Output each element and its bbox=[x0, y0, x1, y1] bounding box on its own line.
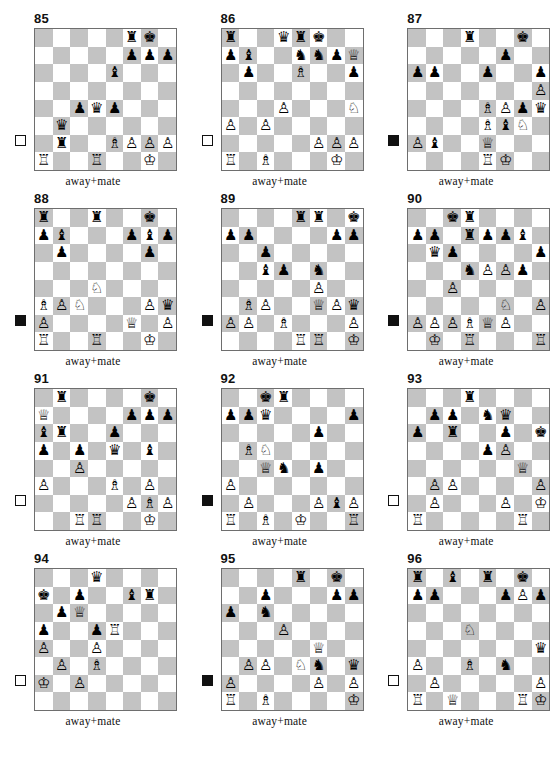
piece-wP-g3[interactable]: ♙ bbox=[143, 298, 156, 313]
square-e1[interactable]: ♖ bbox=[292, 332, 310, 350]
piece-wK-g1[interactable]: ♔ bbox=[143, 153, 156, 168]
square-g2[interactable] bbox=[327, 315, 345, 333]
square-b1[interactable] bbox=[239, 332, 257, 350]
square-e6[interactable] bbox=[292, 424, 310, 442]
square-h4[interactable] bbox=[532, 460, 550, 478]
square-a5[interactable]: ♟ bbox=[35, 442, 53, 460]
square-b2[interactable]: ♝ bbox=[426, 135, 444, 153]
square-a7[interactable] bbox=[408, 407, 426, 425]
square-f5[interactable] bbox=[496, 82, 514, 100]
square-g8[interactable]: ♚ bbox=[514, 29, 532, 47]
square-a5[interactable] bbox=[408, 82, 426, 100]
square-c3[interactable] bbox=[443, 117, 461, 135]
square-a7[interactable]: ♕ bbox=[35, 407, 53, 425]
square-h8[interactable] bbox=[345, 389, 363, 407]
square-h4[interactable]: ♘ bbox=[345, 100, 363, 118]
square-g5[interactable] bbox=[141, 262, 159, 280]
square-d7[interactable] bbox=[274, 407, 292, 425]
piece-bP-h7[interactable]: ♟ bbox=[161, 228, 174, 243]
square-h1[interactable] bbox=[158, 512, 176, 530]
square-g7[interactable] bbox=[514, 407, 532, 425]
square-d3[interactable] bbox=[88, 297, 106, 315]
square-d3[interactable] bbox=[461, 297, 479, 315]
piece-bP-a7[interactable]: ♟ bbox=[224, 48, 237, 63]
piece-wP-f2[interactable]: ♙ bbox=[312, 676, 325, 691]
square-c7[interactable] bbox=[70, 47, 88, 65]
piece-bB-g7[interactable]: ♝ bbox=[143, 228, 156, 243]
piece-bP-h7[interactable]: ♟ bbox=[534, 588, 547, 603]
square-f2[interactable] bbox=[123, 675, 141, 693]
square-a5[interactable] bbox=[222, 262, 240, 280]
piece-bN-f7[interactable]: ♞ bbox=[312, 48, 325, 63]
square-d8[interactable] bbox=[274, 569, 292, 587]
square-b8[interactable] bbox=[426, 569, 444, 587]
square-h8[interactable]: ♚ bbox=[345, 209, 363, 227]
square-h8[interactable] bbox=[158, 569, 176, 587]
square-a5[interactable] bbox=[35, 262, 53, 280]
square-b6[interactable]: ♟ bbox=[426, 64, 444, 82]
square-h7[interactable]: ♟ bbox=[158, 227, 176, 245]
piece-bK-h8[interactable]: ♚ bbox=[347, 210, 360, 225]
piece-bP-b7[interactable]: ♟ bbox=[428, 408, 441, 423]
chess-board[interactable]: ♜♜♚♟♝♟♝♟♟♟♘♗♙♘♙♛♙♕♙♖♖♔ bbox=[34, 208, 177, 351]
piece-bN-f3[interactable]: ♞ bbox=[499, 658, 512, 673]
square-g3[interactable]: ♙ bbox=[327, 297, 345, 315]
square-g4[interactable] bbox=[514, 640, 532, 658]
square-e8[interactable] bbox=[479, 29, 497, 47]
square-d4[interactable] bbox=[461, 640, 479, 658]
square-e6[interactable] bbox=[106, 604, 124, 622]
chess-board[interactable]: ♜♚♟♟♟♝♟♛♟♛♜♗♙♙♙♖♖♔ bbox=[34, 28, 177, 171]
square-c4[interactable] bbox=[70, 280, 88, 298]
square-c1[interactable] bbox=[443, 512, 461, 530]
piece-bQ-d8[interactable]: ♛ bbox=[90, 570, 103, 585]
square-g7[interactable]: ♝ bbox=[514, 227, 532, 245]
piece-bR-f8[interactable]: ♜ bbox=[125, 30, 138, 45]
piece-bK-g8[interactable]: ♚ bbox=[143, 390, 156, 405]
piece-bB-g5[interactable]: ♝ bbox=[143, 443, 156, 458]
piece-bB-b7[interactable]: ♝ bbox=[242, 48, 255, 63]
square-h6[interactable]: ♟ bbox=[532, 64, 550, 82]
square-a4[interactable] bbox=[408, 460, 426, 478]
square-h8[interactable] bbox=[158, 29, 176, 47]
piece-wR-h1[interactable]: ♖ bbox=[347, 513, 360, 528]
piece-bP-f7[interactable]: ♟ bbox=[125, 408, 138, 423]
square-a8[interactable] bbox=[222, 569, 240, 587]
square-b1[interactable]: ♔ bbox=[426, 332, 444, 350]
square-b5[interactable] bbox=[53, 622, 71, 640]
piece-wP-f4[interactable]: ♙ bbox=[312, 281, 325, 296]
square-a1[interactable]: ♖ bbox=[408, 512, 426, 530]
square-g6[interactable]: ♟ bbox=[141, 244, 159, 262]
piece-wB-d3[interactable]: ♗ bbox=[463, 658, 476, 673]
square-f6[interactable]: ♟ bbox=[310, 424, 328, 442]
piece-wP-g2[interactable]: ♙ bbox=[330, 136, 343, 151]
square-b7[interactable]: ♟ bbox=[426, 587, 444, 605]
piece-bP-c7[interactable]: ♟ bbox=[446, 408, 459, 423]
piece-bP-g7[interactable]: ♟ bbox=[143, 48, 156, 63]
square-c6[interactable] bbox=[443, 604, 461, 622]
square-g4[interactable] bbox=[327, 460, 345, 478]
square-d7[interactable] bbox=[274, 227, 292, 245]
square-g2[interactable] bbox=[514, 495, 532, 513]
square-e1[interactable]: ♔ bbox=[292, 512, 310, 530]
square-e8[interactable]: ♜ bbox=[292, 569, 310, 587]
square-f1[interactable] bbox=[310, 152, 328, 170]
square-b3[interactable]: ♙ bbox=[239, 657, 257, 675]
square-b2[interactable] bbox=[239, 135, 257, 153]
piece-wR-c1[interactable]: ♖ bbox=[73, 513, 86, 528]
piece-wP-h2[interactable]: ♙ bbox=[347, 676, 360, 691]
square-a2[interactable]: ♙ bbox=[222, 315, 240, 333]
square-b5[interactable] bbox=[426, 262, 444, 280]
square-f3[interactable] bbox=[310, 117, 328, 135]
piece-wP-c3[interactable]: ♙ bbox=[259, 118, 272, 133]
piece-wR-e1[interactable]: ♖ bbox=[481, 153, 494, 168]
square-e3[interactable] bbox=[479, 657, 497, 675]
piece-bP-f7[interactable]: ♟ bbox=[499, 588, 512, 603]
square-d4[interactable]: ♞ bbox=[274, 460, 292, 478]
piece-bK-a7[interactable]: ♚ bbox=[37, 588, 50, 603]
piece-bP-a6[interactable]: ♟ bbox=[411, 65, 424, 80]
square-c8[interactable] bbox=[70, 389, 88, 407]
piece-wP-h2[interactable]: ♙ bbox=[161, 496, 174, 511]
piece-wP-c3[interactable]: ♙ bbox=[259, 658, 272, 673]
square-e3[interactable]: ♗ bbox=[106, 477, 124, 495]
square-h4[interactable] bbox=[158, 280, 176, 298]
